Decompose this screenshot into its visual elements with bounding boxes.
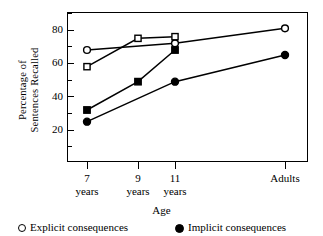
y-tick-label: 80 xyxy=(33,24,63,35)
x-tick-label: Adults xyxy=(255,172,315,185)
y-tick-label: 40 xyxy=(33,91,63,102)
x-tick xyxy=(175,162,176,169)
y-tick-minor xyxy=(67,113,72,114)
y-tick-label: 60 xyxy=(33,57,63,68)
y-tick-minor xyxy=(67,146,72,147)
chart-figure: Percentage of Sentences Recalled 2040608… xyxy=(0,0,323,236)
x-tick-label-value: Adults xyxy=(255,172,315,185)
legend-item-implicit: Implicit consequences xyxy=(175,220,286,234)
y-tick-major xyxy=(67,63,74,64)
x-tick-label: 11years xyxy=(145,172,205,198)
open-circle-icon xyxy=(18,224,26,232)
plot-frame xyxy=(67,12,308,162)
chart-legend: Explicit consequences Implicit consequen… xyxy=(0,220,323,236)
legend-item-explicit: Explicit consequences xyxy=(18,220,128,234)
x-tick-label-unit: years xyxy=(145,185,205,198)
y-tick-label: 20 xyxy=(33,124,63,135)
filled-circle-icon xyxy=(175,224,184,233)
y-tick-major xyxy=(67,96,74,97)
y-tick-minor xyxy=(67,13,72,14)
x-tick xyxy=(285,162,286,169)
legend-label-explicit: Explicit consequences xyxy=(30,221,128,233)
y-axis-title-line1: Percentage of xyxy=(17,15,29,165)
legend-label-implicit: Implicit consequences xyxy=(188,221,286,233)
x-tick xyxy=(87,162,88,169)
y-tick-major xyxy=(67,130,74,131)
y-tick-minor xyxy=(67,46,72,47)
x-tick-label-value: 11 xyxy=(145,172,205,185)
y-tick-major xyxy=(67,30,74,31)
x-tick xyxy=(138,162,139,169)
y-tick-minor xyxy=(67,80,72,81)
x-axis-title: Age xyxy=(0,204,323,216)
